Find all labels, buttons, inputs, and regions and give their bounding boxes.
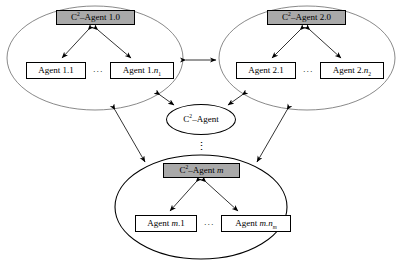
- group-m-agent-1-label: Agent m.1: [147, 219, 185, 228]
- edge-g1-hub: [160, 95, 174, 105]
- group-m-commander-label: C2–Agent m: [179, 166, 223, 175]
- edge-gm-cmd-a1: [170, 182, 196, 211]
- group-m-commander-box[interactable]: C2–Agent m: [163, 163, 240, 178]
- hub-node[interactable]: C2–Agent: [166, 104, 236, 135]
- group-m-agent-n-box[interactable]: Agent m.nm: [221, 215, 291, 232]
- edge-g1-gm: [115, 110, 145, 162]
- group-2-commander-label: C2–Agent 2.0: [282, 13, 331, 22]
- group-1-agent-1-box[interactable]: Agent 1.1: [26, 62, 86, 79]
- edge-g2-cmd-a2: [310, 30, 341, 58]
- group-m-agent-1-box[interactable]: Agent m.1: [135, 215, 197, 232]
- group-1-agent-n-label: Agent 1.n1: [123, 66, 161, 75]
- group-2-agents-ellipsis: ···: [298, 62, 318, 79]
- group-2-agent-1-label: Agent 2.1: [248, 66, 284, 75]
- group-1-commander-label: C2–Agent 1.0: [71, 13, 120, 22]
- edge-gm-cmd-a2: [206, 182, 238, 211]
- group-m-agents-ellipsis: ···: [199, 215, 219, 232]
- group-2-agent-n-box[interactable]: Agent 2.n2: [320, 62, 384, 79]
- group-m-agent-n-label: Agent m.nm: [235, 219, 277, 228]
- hub-label: C2–Agent: [183, 115, 218, 124]
- edge-g2-gm: [257, 110, 287, 162]
- edge-g1-cmd-a1: [62, 30, 88, 58]
- edge-g2-cmd-a1: [272, 30, 300, 58]
- group-1-agent-n-box[interactable]: Agent 1.n1: [110, 62, 174, 79]
- edge-g1-cmd-a2: [98, 30, 131, 58]
- group-1-agents-ellipsis: ···: [88, 62, 108, 79]
- group-2-commander-box[interactable]: C2–Agent 2.0: [267, 10, 346, 25]
- group-2-agent-1-box[interactable]: Agent 2.1: [236, 62, 296, 79]
- group-1-commander-box[interactable]: C2–Agent 1.0: [56, 10, 135, 25]
- group-2-agent-n-label: Agent 2.n2: [333, 66, 371, 75]
- group-1-agent-1-label: Agent 1.1: [38, 66, 74, 75]
- diagram-canvas: C2–Agent 1.0 Agent 1.1 ··· Agent 1.n1 C2…: [0, 0, 402, 271]
- edge-g2-hub: [228, 95, 242, 105]
- groups-vertical-ellipsis: ⋮: [193, 137, 209, 155]
